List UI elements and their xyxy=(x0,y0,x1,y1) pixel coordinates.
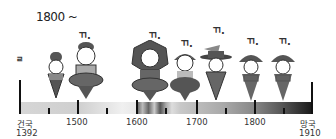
timeline-end-edge xyxy=(311,82,313,114)
figure-illustration xyxy=(68,42,104,100)
figure-illustration xyxy=(236,50,266,102)
tick-label: 1800 xyxy=(244,117,266,127)
figure-illustration xyxy=(44,52,68,100)
tick-label: 1700 xyxy=(186,117,208,127)
figure-illustration xyxy=(268,50,298,102)
half-century-tick xyxy=(106,108,108,114)
figure-illustration xyxy=(130,40,170,102)
start-year: 1392 xyxy=(16,128,38,138)
figure-marker: ㄲ. xyxy=(212,22,225,37)
half-century-tick xyxy=(48,108,50,114)
diagram-title: 1800 ~ xyxy=(36,10,77,24)
end-year: 1910 xyxy=(299,128,321,138)
century-tick xyxy=(77,100,79,114)
half-century-tick xyxy=(283,108,285,114)
century-tick xyxy=(254,100,256,114)
tick-label: 1600 xyxy=(126,117,148,127)
figure-marker: ㄲ. xyxy=(180,35,193,50)
half-century-tick xyxy=(165,108,167,114)
figure-marker: ㄲ. xyxy=(278,33,291,48)
tick-label: 1500 xyxy=(66,117,88,127)
figure-marker: ㄲ. xyxy=(78,27,91,42)
century-tick xyxy=(196,100,198,114)
figure-illustration xyxy=(170,50,200,102)
timeline-start-edge xyxy=(19,80,21,114)
figure-illustration xyxy=(200,45,232,101)
figure-marker: ㄲ. xyxy=(246,33,259,48)
half-century-tick xyxy=(225,108,227,114)
figure-marker: ㄹ xyxy=(16,53,23,64)
century-tick xyxy=(136,100,138,114)
